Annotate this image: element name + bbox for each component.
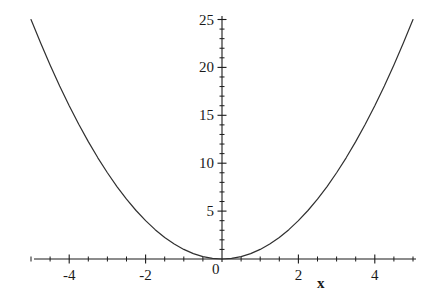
y-tick-label: 20 [184, 60, 214, 75]
x-axis-label: x [317, 276, 325, 291]
origin-tick-label: 0 [212, 262, 220, 277]
x-tick-label: -2 [131, 268, 161, 283]
y-tick-label: 10 [184, 156, 214, 171]
y-tick-label: 15 [184, 108, 214, 123]
x-tick-label: 2 [283, 268, 313, 283]
plot-area [0, 0, 443, 298]
y-tick-label: 25 [184, 13, 214, 28]
x-tick-label: 4 [360, 268, 390, 283]
y-axis-group [218, 16, 227, 262]
x-tick-label: -4 [54, 268, 84, 283]
y-tick-label: 5 [184, 204, 214, 219]
parabola-figure: 510152025 -4-224 0 x [0, 0, 443, 298]
